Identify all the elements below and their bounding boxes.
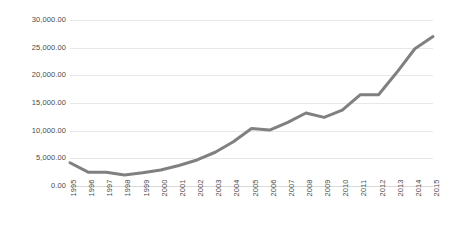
x-axis: 1995199619971998199920002001200220032004…: [70, 188, 433, 228]
y-tick-label: 15,000.00: [2, 99, 66, 107]
chart-screenshot: 0.005,000.0010,000.0015,000.0020,000.002…: [0, 0, 453, 229]
series-line: [70, 37, 433, 175]
line-chart: 0.005,000.0010,000.0015,000.0020,000.002…: [0, 0, 453, 229]
y-tick-label: 5,000.00: [2, 154, 66, 162]
y-tick-label: 30,000.00: [2, 16, 66, 24]
series-layer: [70, 20, 433, 186]
plot-area: [70, 20, 433, 186]
y-tick-label: 0.00: [2, 182, 66, 190]
y-tick-label: 10,000.00: [2, 127, 66, 135]
y-axis: 0.005,000.0010,000.0015,000.0020,000.002…: [0, 20, 66, 186]
y-tick-label: 25,000.00: [2, 44, 66, 52]
y-tick-label: 20,000.00: [2, 71, 66, 79]
